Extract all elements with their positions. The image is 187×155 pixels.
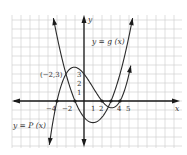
p-curve-label: y = P (x) <box>12 121 46 130</box>
intercept-dot <box>55 99 58 102</box>
y-tick-1: 1 <box>77 89 81 97</box>
x-tick-2: 2 <box>99 105 103 113</box>
x-tick-minus-4: −4 <box>46 105 57 113</box>
intercept-dot <box>109 99 112 102</box>
y-axis-label: y <box>87 15 93 24</box>
g-curve-label: y = g (x) <box>91 37 125 46</box>
x-tick-5: 5 <box>126 105 130 113</box>
y-tick-2: 2 <box>77 80 81 88</box>
x-tick-minus-2: −2 <box>62 105 72 113</box>
point-label: (−2,3) <box>40 71 63 79</box>
y-axis-up-arrow-icon <box>82 15 87 23</box>
x-tick-1: 1 <box>91 105 95 113</box>
x-axis-label: x <box>175 104 180 113</box>
x-tick-4: 4 <box>117 105 122 113</box>
intercept-dot <box>100 99 103 102</box>
intercept-dot <box>73 99 76 102</box>
y-tick-3: 3 <box>77 71 81 79</box>
x-axis-left-arrow-icon <box>12 99 20 104</box>
function-graph: y x (−2,3) y = g (x) y = P (x) −4 −2 1 2… <box>0 0 187 155</box>
intercept-dot <box>118 99 121 102</box>
curve-arrow-icon <box>48 138 53 145</box>
x-axis-right-arrow-icon <box>172 99 180 104</box>
